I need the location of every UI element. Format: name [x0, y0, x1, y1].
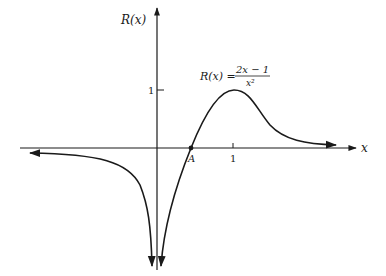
formula-denominator: x² — [246, 78, 255, 88]
rational-function-graph: x R(x) 1 1 A R(x) = 2x − 1 x² — [0, 0, 386, 276]
y-axis-label: R(x) — [120, 13, 146, 27]
formula-numerator: 2x − 1 — [235, 64, 269, 75]
x-axis-label: x — [361, 141, 368, 155]
point-a-marker — [189, 146, 194, 151]
point-a-label: A — [187, 153, 195, 164]
x-tick-label-1: 1 — [230, 153, 236, 164]
function-formula: R(x) = 2x − 1 x² — [199, 64, 270, 88]
formula-lhs: R(x) = — [199, 70, 236, 83]
curve-right-branch — [161, 90, 336, 266]
curve-left-branch — [30, 153, 152, 266]
y-tick-label-1: 1 — [148, 85, 154, 96]
